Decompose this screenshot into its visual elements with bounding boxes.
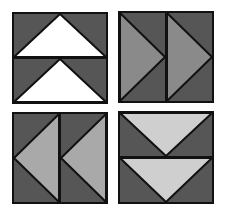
quilt-block-top-left — [12, 12, 108, 104]
flying-geese-up-icon — [12, 12, 108, 104]
quilt-block-top-right — [118, 11, 214, 103]
quilt-block-bottom-right — [118, 111, 214, 204]
quilt-block-bottom-left — [12, 112, 108, 204]
flying-geese-right-icon — [118, 11, 214, 103]
flying-geese-left-icon — [12, 112, 108, 204]
flying-geese-down-icon — [118, 111, 214, 204]
